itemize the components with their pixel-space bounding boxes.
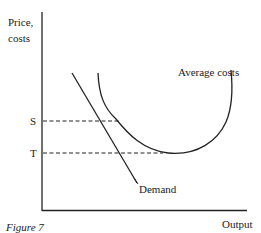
y-axis-label-line1: Price, bbox=[8, 16, 33, 28]
average-costs-label: Average costs bbox=[178, 66, 239, 78]
x-axis-label: Output bbox=[222, 218, 253, 230]
demand-label-leader bbox=[134, 178, 138, 184]
demand-curve bbox=[72, 73, 137, 183]
price-level-t-label: T bbox=[30, 147, 37, 159]
figure-caption: Figure 7 bbox=[6, 221, 44, 233]
y-axis-label-line2: costs bbox=[8, 32, 30, 44]
price-level-s-label: S bbox=[30, 115, 36, 127]
average-costs-curve bbox=[98, 70, 232, 153]
diagram-canvas bbox=[0, 0, 261, 233]
demand-label: Demand bbox=[139, 183, 176, 195]
